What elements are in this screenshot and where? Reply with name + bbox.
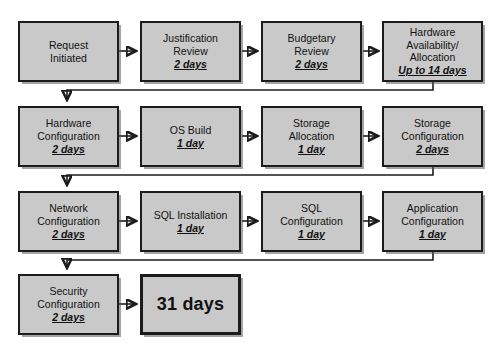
node-duration: 2 days xyxy=(174,58,207,70)
node-duration: 1 day xyxy=(419,228,446,240)
node-duration: 1 day xyxy=(177,222,204,234)
node-line: Storage xyxy=(293,117,330,129)
node-network-configuration[interactable]: Network Configuration 2 days xyxy=(18,191,119,252)
node-duration: 1 day xyxy=(177,137,204,149)
node-sql-configuration[interactable]: SQL Configuration 1 day xyxy=(261,191,362,252)
node-duration: 2 days xyxy=(416,143,449,155)
node-line: Configuration xyxy=(280,215,342,227)
node-line: Hardware xyxy=(46,117,92,129)
node-line: Availability/ xyxy=(406,39,458,51)
node-storage-configuration[interactable]: Storage Configuration 2 days xyxy=(382,106,483,167)
node-line: Storage xyxy=(414,117,451,129)
node-duration: 2 days xyxy=(295,58,328,70)
node-request-initiated[interactable]: Request Initiated xyxy=(18,21,119,82)
node-duration: Up to 14 days xyxy=(398,64,466,76)
node-line: Configuration xyxy=(37,130,99,142)
node-line: Budgetary xyxy=(288,32,336,44)
node-line: SQL xyxy=(301,202,322,214)
node-duration: 1 day xyxy=(298,143,325,155)
node-budgetary-review[interactable]: Budgetary Review 2 days xyxy=(261,21,362,82)
node-hardware-configuration[interactable]: Hardware Configuration 2 days xyxy=(18,106,119,167)
node-duration: 2 days xyxy=(52,228,85,240)
node-line: Configuration xyxy=(37,215,99,227)
node-line: Initiated xyxy=(50,52,87,64)
node-line: SQL Installation xyxy=(154,209,228,221)
node-security-configuration[interactable]: Security Configuration 2 days xyxy=(18,274,119,335)
wrap-connector-row1-row2 xyxy=(67,82,433,100)
node-line: Justification xyxy=(163,32,218,44)
node-total-duration[interactable]: 31 days xyxy=(140,274,241,335)
node-line: Review xyxy=(173,45,207,57)
wrap-connector-row2-row3 xyxy=(67,167,433,185)
node-hardware-availability-allocation[interactable]: Hardware Availability/ Allocation Up to … xyxy=(382,21,483,82)
node-duration: 1 day xyxy=(298,228,325,240)
node-line: Security xyxy=(50,285,88,297)
node-line: Configuration xyxy=(401,130,463,142)
node-sql-installation[interactable]: SQL Installation 1 day xyxy=(140,191,241,252)
node-line: Network xyxy=(49,202,88,214)
node-os-build[interactable]: OS Build 1 day xyxy=(140,106,241,167)
node-line: Allocation xyxy=(410,51,456,63)
node-line: Configuration xyxy=(401,215,463,227)
node-line: Allocation xyxy=(289,130,335,142)
node-line: Application xyxy=(407,202,458,214)
total-duration-label: 31 days xyxy=(157,294,224,315)
node-line: OS Build xyxy=(170,124,211,136)
node-application-configuration[interactable]: Application Configuration 1 day xyxy=(382,191,483,252)
node-duration: 2 days xyxy=(52,143,85,155)
wrap-connector-row3-row4 xyxy=(67,252,433,268)
node-line: Hardware xyxy=(410,26,456,38)
node-line: Review xyxy=(294,45,328,57)
node-line: Configuration xyxy=(37,298,99,310)
node-duration: 2 days xyxy=(52,311,85,323)
node-line: Request xyxy=(49,39,88,51)
node-justification-review[interactable]: Justification Review 2 days xyxy=(140,21,241,82)
flowchart-canvas: Request Initiated Justification Review 2… xyxy=(0,0,501,356)
node-storage-allocation[interactable]: Storage Allocation 1 day xyxy=(261,106,362,167)
